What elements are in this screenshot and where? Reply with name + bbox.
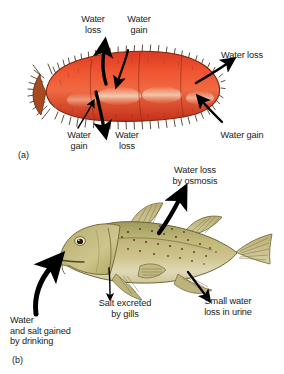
panel-b-arrows: [36, 198, 206, 314]
pelvic-fin: [112, 274, 142, 300]
label-water-loss-bottom-mid: Water loss: [104, 130, 150, 151]
sea-cucumber-illustration: [28, 45, 225, 129]
fish-head: [60, 224, 120, 275]
label-water-gain-bottom-left: Water gain: [56, 130, 102, 151]
arrow-water-gain-bottom-left: [78, 104, 92, 128]
fish-mouth: [56, 259, 84, 262]
fish-eye: [75, 237, 86, 246]
chin-barbel: [62, 265, 65, 274]
second-dorsal-fin: [186, 216, 222, 235]
arrow-water-salt-gained-drinking: [36, 266, 52, 314]
arrow-water-gain-right: [202, 101, 222, 122]
arrow-water-loss-osmosis: [159, 198, 180, 233]
arrow-salt-excreted-gills: [109, 268, 110, 296]
panel-a-arrows: [78, 50, 228, 128]
arrow-water-loss-right: [196, 63, 228, 83]
first-dorsal-fin: [128, 203, 163, 232]
panel-tag-b: (b): [12, 355, 23, 365]
osmoregulation-figure: Water loss Water gain Water loss Water g…: [0, 0, 284, 374]
label-water-loss-by-osmosis: Water loss by osmosis: [152, 165, 238, 186]
label-water-and-salt-gained-by-drinking: Water and salt gained by drinking: [10, 315, 106, 347]
panel-tag-a: (a): [18, 150, 29, 160]
fish-speckles: [115, 225, 217, 265]
arrow-water-loss-bottom: [96, 92, 104, 128]
lateral-line: [96, 238, 212, 250]
label-small-water-loss-in-urine: Small water loss in urine: [182, 296, 274, 317]
label-water-loss-top-left: Water loss: [70, 14, 116, 35]
arrow-small-water-loss-urine: [188, 272, 206, 296]
arrow-water-gain-top: [118, 50, 128, 81]
anal-fin: [174, 274, 212, 293]
label-water-loss-right: Water loss: [206, 50, 278, 61]
fish-body: [60, 222, 237, 283]
arrow-water-loss-top: [103, 50, 106, 84]
cucumber-body: [46, 51, 220, 121]
pectoral-fin: [138, 264, 166, 278]
caudal-fin: [236, 234, 272, 264]
fish-illustration: [55, 203, 272, 300]
operculum: [108, 228, 111, 274]
label-water-gain-top-mid: Water gain: [116, 14, 162, 35]
label-water-gain-bottom-right: Water gain: [206, 130, 278, 141]
